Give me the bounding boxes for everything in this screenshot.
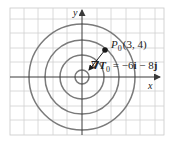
gradient-symbol: ∇T xyxy=(91,59,107,71)
gradient-label: ∇T0 = −6i − 8j xyxy=(91,59,157,74)
point-p0 xyxy=(102,47,108,53)
x-axis-label: x xyxy=(147,80,153,91)
y-axis-label: y xyxy=(72,7,78,18)
gradient-j: j xyxy=(153,59,158,71)
gradient-equals: = −6 xyxy=(110,59,134,71)
gradient-diagram: x y P0(3, 4) ∇T0 = −6i − 8j xyxy=(0,0,177,157)
axes xyxy=(10,10,160,135)
gradient-minus: − 8 xyxy=(137,59,155,71)
point-subscript: 0 xyxy=(118,44,122,53)
point-coords: (3, 4) xyxy=(123,38,147,51)
